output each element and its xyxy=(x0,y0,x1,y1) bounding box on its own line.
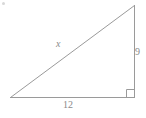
hypotenuse-line xyxy=(11,6,135,98)
vertical-leg-label: 9 xyxy=(135,47,140,57)
triangle-drawing xyxy=(0,0,146,118)
hypotenuse-label: x xyxy=(56,39,60,49)
right-angle-marker-icon xyxy=(127,90,135,98)
right-triangle-figure: x 9 12 xyxy=(0,0,146,118)
horizontal-leg-label: 12 xyxy=(63,100,73,110)
